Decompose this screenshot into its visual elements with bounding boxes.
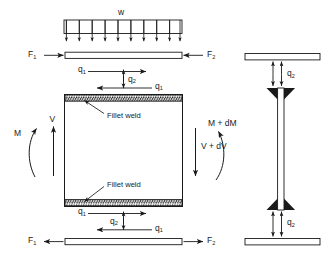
bottom-flange-plate	[65, 239, 182, 245]
right-moment-label: M + dM	[208, 119, 237, 128]
left-moment-curved-arrow	[29, 129, 36, 178]
cs-top-q2-label: q2	[287, 69, 295, 78]
top-shear-flow-group	[88, 70, 152, 89]
bottom-shear-flow-group	[88, 212, 152, 230]
cs-top-flow-arrows	[273, 62, 282, 87]
cs-top-flange	[245, 54, 320, 60]
top-q1-upper-label: q1	[78, 65, 86, 74]
bottom-fillet-weld-label: Fillet weld	[107, 181, 141, 189]
cs-weld-triangle-bottom-right	[284, 199, 295, 211]
distributed-load-box	[64, 20, 182, 34]
left-moment-shear-group	[29, 127, 53, 178]
top-fillet-weld-band	[65, 95, 182, 101]
distributed-load-group	[64, 20, 182, 41]
right-shear-label: V + dV	[201, 142, 227, 151]
cs-bottom-q2-label: q2	[287, 218, 295, 227]
top-F2-label: F2	[207, 50, 215, 59]
bottom-q1-upper-subscript: 1	[83, 211, 86, 217]
bottom-flange-group	[44, 239, 203, 245]
top-q2-label: q2	[128, 75, 136, 84]
bottom-fillet-weld-band	[65, 200, 182, 206]
cs-web	[278, 88, 284, 210]
bottom-F1-label: F1	[28, 236, 36, 245]
bottom-q1-upper-label: q1	[78, 207, 86, 216]
top-flange-group	[44, 52, 203, 58]
bottom-F2-subscript: 2	[212, 240, 215, 246]
top-flange-plate	[65, 52, 182, 58]
top-F2-subscript: 2	[212, 54, 215, 60]
cs-weld-triangle-top-left	[267, 88, 278, 100]
distributed-load-label: w	[118, 8, 124, 17]
top-fillet-weld-label: Fillet weld	[107, 112, 141, 120]
left-shear-label: V	[50, 115, 56, 124]
bottom-F2-label: F2	[207, 236, 215, 245]
bottom-q2-label: q2	[110, 217, 118, 226]
cs-top-q2-subscript: 2	[292, 73, 295, 79]
bottom-q1-lower-label: q1	[155, 224, 163, 233]
top-q1-upper-subscript: 1	[83, 69, 86, 75]
right-moment-shear-group	[196, 128, 224, 180]
bottom-F1-subscript: 1	[33, 240, 36, 246]
left-moment-label: M	[14, 129, 21, 138]
top-q2-subscript: 2	[133, 78, 136, 84]
cs-weld-triangle-top-right	[284, 88, 295, 100]
cs-bottom-q2-subscript: 2	[292, 222, 295, 228]
top-F1-subscript: 1	[33, 54, 36, 60]
cs-bottom-flow-arrows	[273, 212, 282, 237]
bottom-q1-lower-subscript: 1	[160, 227, 163, 233]
figure-canvas: w F1 F2 q1 q2 q1 Fillet weld Fillet weld…	[0, 0, 332, 254]
diagram-vector-layer	[0, 0, 332, 254]
cs-weld-triangle-bottom-left	[267, 199, 278, 211]
cross-section-view-group	[245, 54, 320, 245]
cs-bottom-flange	[245, 239, 320, 245]
top-q1-lower-label: q1	[155, 82, 163, 91]
top-q1-lower-subscript: 1	[160, 85, 163, 91]
right-moment-curved-arrow	[216, 132, 224, 181]
top-F1-label: F1	[28, 50, 36, 59]
bottom-q2-subscript: 2	[115, 220, 118, 226]
